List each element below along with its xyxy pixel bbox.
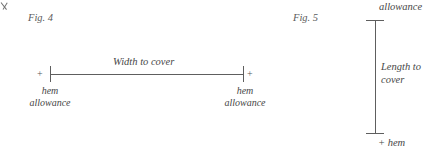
fig-5-dimension-label-line1: Length to: [381, 61, 421, 73]
fig-4-dimension-label: Width to cover: [113, 56, 174, 68]
fig-5-caption: Fig. 5: [293, 12, 318, 24]
fig-4-measure-line: [50, 74, 243, 75]
fig-5-dimension-label-line2: cover: [381, 74, 404, 86]
fig-5-top-allowance-label: allowance: [379, 1, 422, 13]
diagram-canvas: Fig. 4 Width to cover + + hem allowance …: [0, 0, 423, 155]
fig-4-left-hem-label-line2: allowance: [0, 97, 100, 109]
fig-4-left-end-tick: [50, 66, 51, 82]
fig-4-right-end-tick: [243, 66, 244, 82]
fig-4-right-plus-sign: +: [247, 68, 253, 79]
fig-4-left-plus-sign: +: [37, 68, 43, 79]
fig-5-measure-line: [375, 20, 376, 133]
fig-5-top-end-tick: [366, 20, 384, 21]
fig-5-bottom-end-tick: [366, 133, 384, 134]
fig-5-bottom-hem-label: + hem: [378, 137, 405, 149]
fig-4-left-hem-label-line1: hem: [0, 85, 100, 97]
fig-4-caption: Fig. 4: [28, 12, 53, 24]
fig-4-right-hem-label-line1: hem: [195, 85, 295, 97]
fig-4-right-hem-label-line2: allowance: [195, 97, 295, 109]
